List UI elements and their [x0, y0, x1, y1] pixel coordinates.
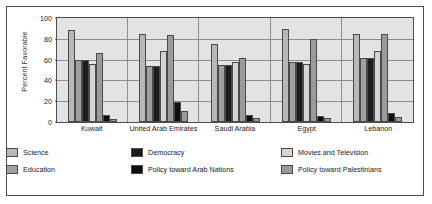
y-tick-label: 20 [44, 97, 52, 106]
legend-swatch [131, 165, 143, 174]
y-tick-label: 100 [40, 14, 52, 23]
bar [395, 117, 402, 122]
bar [303, 64, 310, 122]
legend-label: Science [23, 148, 49, 157]
legend-swatch [281, 148, 293, 157]
bar [96, 53, 103, 122]
bar [89, 64, 96, 122]
legend-item: Policy toward Palestinians [281, 165, 432, 174]
bar [174, 102, 181, 122]
x-axis-label: United Arab Emirates [128, 124, 200, 133]
bar-group [199, 18, 270, 122]
bar [310, 39, 317, 122]
bar [388, 113, 395, 122]
legend-label: Policy toward Palestinians [298, 165, 382, 174]
y-tick-label: 80 [44, 34, 52, 43]
bar [367, 58, 374, 122]
bar [146, 66, 153, 122]
bar-groups [57, 18, 413, 122]
x-axis-labels: KuwaitUnited Arab EmiratesSaudi ArabiaEg… [56, 124, 414, 133]
chart-figure: Percent Favorable 020406080100 KuwaitUni… [6, 6, 424, 196]
x-axis-label: Lebanon [342, 124, 414, 133]
legend-item: Democracy [131, 148, 281, 157]
legend-swatch [6, 165, 18, 174]
legend-swatch [281, 165, 293, 174]
bar [110, 119, 117, 122]
bar [139, 34, 146, 122]
y-axis-title: Percent Favorable [20, 14, 29, 110]
bar [289, 62, 296, 122]
bar [239, 58, 246, 122]
x-axis-label: Saudi Arabia [199, 124, 271, 133]
y-tick-label: 60 [44, 55, 52, 64]
bar [246, 115, 253, 122]
legend-item: Science [6, 148, 131, 157]
x-axis-label: Kuwait [56, 124, 128, 133]
bar [296, 62, 303, 122]
bar [75, 60, 82, 122]
legend-item: Movies and Television [281, 148, 432, 157]
bar [181, 111, 188, 122]
bar [360, 58, 367, 122]
bar [374, 51, 381, 122]
bar [160, 51, 167, 122]
bar-group [128, 18, 199, 122]
y-axis-ticks: 020406080100 [29, 17, 55, 123]
legend-label: Democracy [148, 148, 184, 157]
bar [218, 65, 225, 122]
legend-label: Policy toward Arab Nations [148, 165, 234, 174]
bar [353, 34, 360, 122]
bar [211, 44, 218, 122]
bar [282, 29, 289, 122]
bar [82, 60, 89, 122]
legend-items: ScienceDemocracyMovies and TelevisionEdu… [0, 144, 432, 194]
plot-wrapper: Percent Favorable 020406080100 KuwaitUni… [7, 7, 425, 135]
x-axis-label: Egypt [271, 124, 343, 133]
bar [381, 34, 388, 122]
legend-item: Policy toward Arab Nations [131, 165, 281, 174]
bar [225, 65, 232, 122]
bar [317, 116, 324, 122]
bar-group [57, 18, 128, 122]
legend-label: Movies and Television [298, 148, 368, 157]
bar [167, 35, 174, 122]
y-tick-label: 40 [44, 76, 52, 85]
bar [324, 118, 331, 122]
legend-label: Education [23, 165, 55, 174]
bar-group [271, 18, 342, 122]
bar [253, 118, 260, 122]
legend-swatch [6, 148, 18, 157]
y-tick-label: 0 [48, 118, 52, 127]
plot-area [56, 17, 414, 123]
bar [153, 66, 160, 122]
chart-legend: ScienceDemocracyMovies and TelevisionEdu… [7, 144, 425, 194]
bar [68, 30, 75, 122]
bar [232, 62, 239, 122]
bar-group [342, 18, 413, 122]
legend-swatch [131, 148, 143, 157]
legend-item: Education [6, 165, 131, 174]
bar [103, 115, 110, 122]
